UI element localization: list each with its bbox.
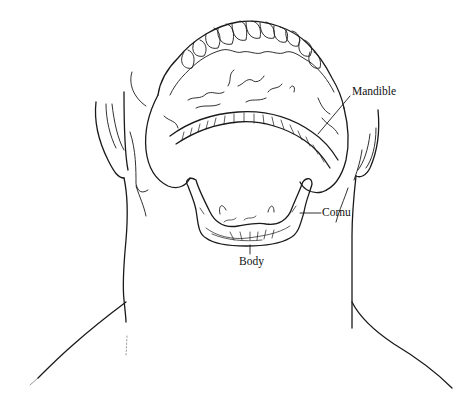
- label-body: Body: [239, 256, 264, 268]
- label-mandible: Mandible: [352, 86, 396, 98]
- face-outline: [96, 92, 379, 192]
- line-drawing: [0, 0, 474, 413]
- artist-signature-mark: [126, 336, 127, 356]
- mandible-drawing: [131, 21, 348, 193]
- neck-outline: [30, 176, 452, 388]
- hyoid-bone-drawing: [187, 178, 312, 246]
- leader-lines: [250, 96, 350, 254]
- label-cornu: Cornu: [322, 207, 351, 219]
